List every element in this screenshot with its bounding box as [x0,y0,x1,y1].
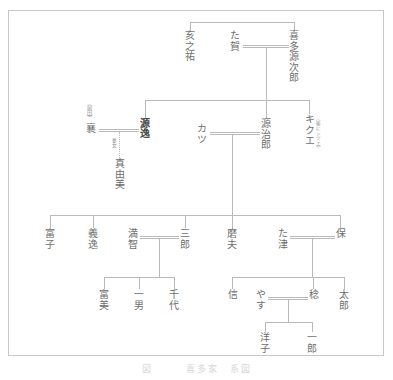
descent-gen1-to-gen2 [266,48,267,100]
drop-shin [232,277,233,289]
person-kikue: キクエ [304,114,314,146]
drop-genitsu [145,100,146,118]
drop-tamotsu [340,215,341,228]
person-tamotsu: 保 [335,228,345,239]
drop-yoshitsugu [93,215,94,228]
person-kikue-note: （後にシヅエ） [314,116,319,151]
person-chiyo: 千代 [168,289,178,310]
drop-mao [232,215,233,228]
person-yoshitsugu: 義逸 [87,228,97,249]
drop-ichiro [312,322,313,332]
person-minoru: 稔 [308,289,318,300]
person-tatsu: た津 [277,228,287,249]
sibling-bar-gen2 [145,100,309,101]
drop-saburo [185,215,186,228]
person-kitagenjiro: 喜多源次郎 [288,30,298,83]
drop-kitagenjiro [294,22,295,30]
family-tree-figure: 亥之祐 た賀 喜多源次郎 （前田） 襄 源逸 養女 真由美 カツ 源治郎 キクエ… [0,0,393,380]
person-kazuo: 一男 [133,289,143,310]
person-yoko: 洋子 [259,332,269,353]
person-saburo: 三郎 [179,228,189,249]
person-michi: 満智 [127,228,137,249]
person-shin: 信 [227,289,237,300]
drop-minoru [313,277,314,289]
person-fumi: 富美 [98,289,108,310]
marriage-katsu-genjiro [210,132,260,135]
person-tomiko: 富子 [44,228,54,249]
drop-chiyo [174,277,175,289]
sibling-bar-gen1 [190,22,294,23]
sibling-bar-gen5-right [232,277,344,278]
drop-inosuke [190,22,191,30]
person-mao: 磨夫 [226,228,236,249]
person-susumu-family-note: （前田） [86,100,91,120]
drop-genjiro [266,100,267,118]
figure-frame [8,10,384,356]
drop-kikue [309,100,310,114]
drop-taro [344,277,345,289]
sibling-bar-gen6 [265,322,312,323]
adoption-line-mayumi [119,132,120,160]
drop-yoko [265,322,266,332]
drop-fumi [104,277,105,289]
descent-gen2-to-gen4 [232,135,233,215]
figure-caption: 図 喜多家 系図 [0,362,393,375]
person-ichiro: 一郎 [306,332,316,353]
descent-michi-saburo [159,239,160,277]
person-genitsu: 源逸 [139,118,149,139]
person-yasu: やす [255,289,265,310]
person-maeda-susumu: 襄 [85,123,95,134]
descent-yasu-minoru [288,300,289,322]
person-mayumi: 真由美 [114,158,124,190]
person-taro: 太郎 [338,289,348,310]
adoption-note: 養女 [110,138,115,148]
person-katsu: カツ [196,123,206,144]
person-inosuke: 亥之祐 [184,30,194,62]
person-genjiro: 源治郎 [260,118,270,150]
drop-kazuo [139,277,140,289]
descent-tatsu-tamotsu [312,239,313,277]
person-taga: た賀 [229,30,239,51]
drop-tomiko [50,215,51,228]
